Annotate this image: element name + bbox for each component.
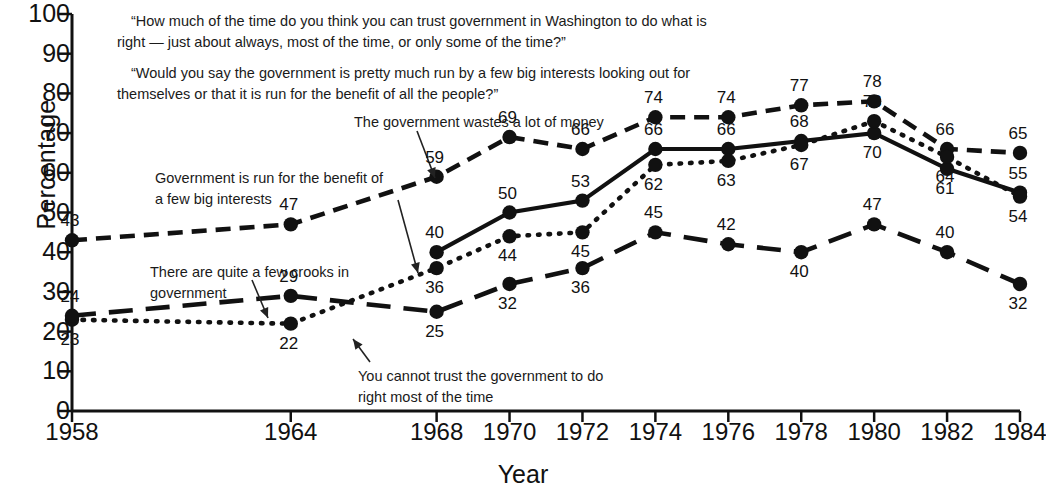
data-label: 40 bbox=[936, 223, 955, 242]
data-point bbox=[794, 138, 808, 152]
data-label: 55 bbox=[1009, 164, 1028, 183]
data-label: 40 bbox=[425, 223, 444, 242]
data-label: 68 bbox=[790, 112, 809, 131]
arrow-big-interests-head bbox=[411, 262, 420, 273]
data-label: 66 bbox=[644, 120, 663, 139]
data-point bbox=[502, 130, 516, 144]
data-label: 67 bbox=[790, 155, 809, 174]
data-label: 65 bbox=[1009, 124, 1028, 143]
data-label: 47 bbox=[279, 195, 298, 214]
data-point bbox=[575, 225, 589, 239]
plot-area: 4347596966747477786665405053666668706155… bbox=[0, 0, 1046, 496]
data-point bbox=[648, 225, 662, 239]
data-label: 43 bbox=[61, 211, 80, 230]
arrow-big-interests bbox=[398, 200, 418, 273]
data-point bbox=[502, 277, 516, 291]
data-point bbox=[940, 245, 954, 259]
data-point bbox=[429, 245, 443, 259]
series-layer bbox=[65, 94, 1027, 331]
data-label: 22 bbox=[279, 334, 298, 353]
data-label: 45 bbox=[644, 203, 663, 222]
data-point bbox=[1013, 146, 1027, 160]
data-label: 78 bbox=[863, 72, 882, 91]
annotation-arrows bbox=[252, 131, 436, 362]
data-label: 70 bbox=[863, 143, 882, 162]
chart-figure: Percentage 0102030405060708090100 195819… bbox=[0, 0, 1046, 496]
data-label: 54 bbox=[1009, 207, 1028, 226]
data-label: 74 bbox=[644, 88, 663, 107]
data-label: 24 bbox=[61, 287, 80, 306]
data-point bbox=[575, 142, 589, 156]
data-point bbox=[1013, 189, 1027, 203]
data-label: 77 bbox=[790, 76, 809, 95]
data-point bbox=[794, 98, 808, 112]
data-label: 64 bbox=[936, 167, 955, 186]
data-label: 25 bbox=[425, 322, 444, 341]
data-point bbox=[65, 233, 79, 247]
data-point bbox=[648, 142, 662, 156]
data-label: 73 bbox=[863, 92, 882, 111]
data-label: 53 bbox=[571, 172, 590, 191]
data-point bbox=[284, 217, 298, 231]
data-point bbox=[1013, 277, 1027, 291]
data-point bbox=[429, 261, 443, 275]
data-point bbox=[429, 305, 443, 319]
series-line-3 bbox=[72, 224, 1020, 315]
arrow-cannot-trust-head bbox=[353, 339, 363, 350]
data-label: 29 bbox=[279, 267, 298, 286]
data-label: 69 bbox=[498, 108, 517, 127]
data-label: 66 bbox=[717, 120, 736, 139]
data-point bbox=[721, 154, 735, 168]
data-label: 36 bbox=[571, 278, 590, 297]
data-label: 74 bbox=[717, 88, 736, 107]
data-label: 66 bbox=[571, 120, 590, 139]
data-label: 45 bbox=[571, 242, 590, 261]
data-point bbox=[648, 158, 662, 172]
data-point bbox=[940, 150, 954, 164]
data-point bbox=[575, 193, 589, 207]
data-label: 44 bbox=[498, 246, 517, 265]
data-label: 47 bbox=[863, 195, 882, 214]
data-point bbox=[284, 289, 298, 303]
data-point bbox=[867, 114, 881, 128]
data-label: 50 bbox=[498, 184, 517, 203]
data-point bbox=[794, 245, 808, 259]
data-point bbox=[502, 229, 516, 243]
data-label: 66 bbox=[936, 120, 955, 139]
data-point bbox=[284, 316, 298, 330]
data-label: 59 bbox=[425, 148, 444, 167]
data-point bbox=[502, 205, 516, 219]
data-point bbox=[575, 261, 589, 275]
data-label: 32 bbox=[1009, 294, 1028, 313]
data-label: 40 bbox=[790, 262, 809, 281]
data-point bbox=[65, 309, 79, 323]
data-label: 32 bbox=[498, 294, 517, 313]
data-point bbox=[721, 237, 735, 251]
data-point bbox=[867, 217, 881, 231]
data-point-labels: 4347596966747477786665405053666668706155… bbox=[61, 72, 1028, 352]
data-label: 23 bbox=[61, 330, 80, 349]
data-label: 62 bbox=[644, 175, 663, 194]
data-label: 42 bbox=[717, 215, 736, 234]
data-label: 36 bbox=[425, 278, 444, 297]
data-label: 63 bbox=[717, 171, 736, 190]
